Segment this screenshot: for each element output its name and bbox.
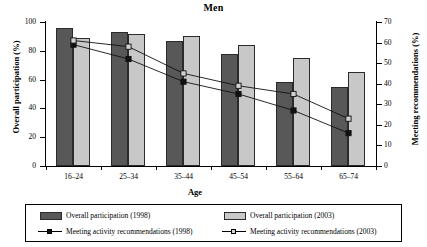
line-open-marker-icon xyxy=(222,228,246,236)
legend-entry-overall-2003: Overall participation (2003) xyxy=(224,211,334,220)
bar-2003 xyxy=(348,72,365,166)
bar-2003 xyxy=(128,34,145,166)
legend-entry-meeting-1998: Meeting activity recommendations (1998) xyxy=(38,227,192,236)
right-axis-title: Meeting recommendations (%) xyxy=(410,29,420,149)
x-axis-title: Age xyxy=(0,187,390,197)
x-axis-tick xyxy=(321,166,322,170)
x-axis-tick xyxy=(101,166,102,170)
x-axis-tick-label: 45–54 xyxy=(212,172,266,181)
right-axis-tick-label: 50 xyxy=(384,58,408,67)
right-axis-tick-label: 60 xyxy=(384,38,408,47)
bar-1998 xyxy=(276,82,293,166)
bar-1998 xyxy=(166,41,183,166)
x-axis-tick-label: 35–44 xyxy=(157,172,211,181)
right-axis-tick xyxy=(376,22,382,23)
right-axis-tick xyxy=(376,125,382,126)
right-axis-tick-label: 0 xyxy=(384,161,408,170)
chart-title: Men xyxy=(0,2,427,13)
legend-label: Meeting activity recommendations (2003) xyxy=(250,227,376,236)
x-axis-tick-label: 55–64 xyxy=(267,172,321,181)
right-axis-tick xyxy=(376,104,382,105)
legend-entry-meeting-2003: Meeting activity recommendations (2003) xyxy=(222,227,376,236)
bar-1998 xyxy=(56,28,73,166)
left-axis-tick-label: 80 xyxy=(12,46,36,55)
x-axis-tick-label: 16–24 xyxy=(47,172,101,181)
chart-figure: Men Overall participation (%) Meeting re… xyxy=(0,0,427,247)
x-axis-tick xyxy=(46,166,47,170)
right-axis-tick xyxy=(376,43,382,44)
left-axis-tick-label: 60 xyxy=(12,75,36,84)
x-axis-tick xyxy=(156,166,157,170)
dark-square-swatch-icon xyxy=(40,212,62,220)
left-axis-tick-label: 100 xyxy=(12,17,36,26)
legend-label: Meeting activity recommendations (1998) xyxy=(66,227,192,236)
bar-2003 xyxy=(73,38,90,166)
right-axis-tick-label: 10 xyxy=(384,140,408,149)
right-axis-tick xyxy=(376,145,382,146)
x-axis-tick-label: 25–34 xyxy=(102,172,156,181)
line-filled-marker-icon xyxy=(38,228,62,236)
bar-2003 xyxy=(293,58,310,166)
x-axis-tick xyxy=(211,166,212,170)
bar-2003 xyxy=(238,45,255,166)
right-axis-tick-label: 20 xyxy=(384,120,408,129)
right-axis-tick-label: 30 xyxy=(384,99,408,108)
left-axis-tick-label: 40 xyxy=(12,103,36,112)
light-square-swatch-icon xyxy=(224,212,246,220)
legend-label: Overall participation (1998) xyxy=(66,211,150,220)
right-axis-tick-label: 70 xyxy=(384,17,408,26)
bar-2003 xyxy=(183,36,200,166)
chart-legend: Overall participation (1998) Overall par… xyxy=(25,204,402,242)
right-axis-tick xyxy=(376,63,382,64)
bar-1998 xyxy=(221,54,238,166)
legend-label: Overall participation (2003) xyxy=(250,211,334,220)
x-axis-tick xyxy=(266,166,267,170)
plot-area xyxy=(46,22,376,166)
left-axis-tick-label: 0 xyxy=(12,161,36,170)
x-axis-tick xyxy=(376,166,377,170)
right-axis-tick-label: 40 xyxy=(384,79,408,88)
right-axis-tick xyxy=(376,84,382,85)
legend-entry-overall-1998: Overall participation (1998) xyxy=(40,211,150,220)
bar-1998 xyxy=(331,87,348,166)
x-axis-tick-label: 65–74 xyxy=(322,172,376,181)
left-axis-tick-label: 20 xyxy=(12,132,36,141)
bar-1998 xyxy=(111,32,128,166)
